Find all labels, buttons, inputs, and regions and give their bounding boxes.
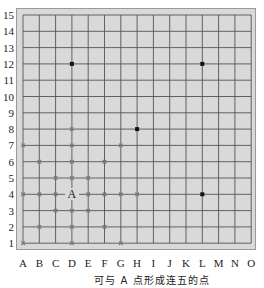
row-label: 11 bbox=[0, 74, 14, 86]
column-label: M bbox=[212, 257, 226, 269]
column-label: G bbox=[114, 257, 128, 269]
row-label: 1 bbox=[0, 237, 14, 249]
row-label: 3 bbox=[0, 205, 14, 217]
row-label: 8 bbox=[0, 123, 14, 135]
row-label: 15 bbox=[0, 9, 14, 21]
row-label: 6 bbox=[0, 156, 14, 168]
row-label: 13 bbox=[0, 42, 14, 54]
column-label: H bbox=[130, 257, 144, 269]
row-label: 7 bbox=[0, 139, 14, 151]
column-label: L bbox=[195, 257, 209, 269]
row-label: 14 bbox=[0, 25, 14, 37]
column-label: K bbox=[179, 257, 193, 269]
column-label: B bbox=[32, 257, 46, 269]
black-stone-icon bbox=[135, 127, 139, 131]
row-label: 5 bbox=[0, 172, 14, 184]
column-label: C bbox=[49, 257, 63, 269]
black-stone-icon bbox=[70, 62, 74, 66]
column-label: D bbox=[65, 257, 79, 269]
figure-caption: 可与 A 点形成连五的点 bbox=[0, 272, 264, 287]
column-label: A bbox=[16, 257, 30, 269]
row-label: 12 bbox=[0, 58, 14, 70]
column-label: J bbox=[163, 257, 177, 269]
point-label-a: A bbox=[65, 188, 79, 200]
row-label: 2 bbox=[0, 221, 14, 233]
column-label: I bbox=[146, 257, 160, 269]
row-label: 10 bbox=[0, 91, 14, 103]
row-label: 4 bbox=[0, 188, 14, 200]
black-stone-icon bbox=[200, 192, 204, 196]
column-label: O bbox=[244, 257, 258, 269]
column-label: F bbox=[98, 257, 112, 269]
black-stone-icon bbox=[200, 62, 204, 66]
row-label: 9 bbox=[0, 107, 14, 119]
column-label: E bbox=[81, 257, 95, 269]
column-label: N bbox=[228, 257, 242, 269]
gomoku-board bbox=[0, 0, 264, 288]
